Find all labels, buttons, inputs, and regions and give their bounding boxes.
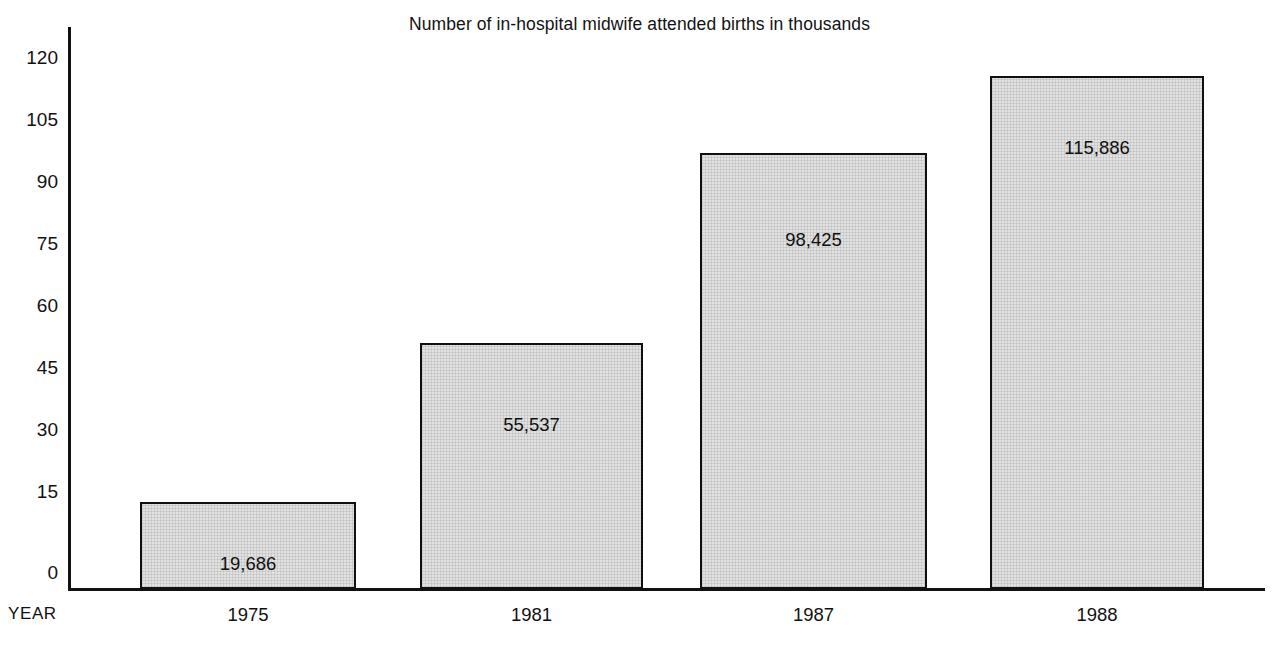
y-axis-tick-labels: 120 105 90 75 60 45 30 15 0 [0,0,58,648]
y-tick-label-90: 90 [0,172,58,191]
bar-1988[interactable]: 115,886 [990,76,1204,589]
y-tick-label-45: 45 [0,358,58,377]
plot-area: 19,686 55,537 98,425 115,886 [71,27,1265,589]
bar-value-1975: 19,686 [142,554,354,573]
bar-value-1987: 98,425 [702,230,925,249]
bar-value-1981: 55,537 [422,415,641,434]
y-tick-label-75: 75 [0,234,58,253]
y-tick-label-120: 120 [0,48,58,67]
bar-chart: Number of in-hospital midwife attended b… [0,0,1279,648]
x-tick-label-1981: 1981 [420,604,643,626]
x-tick-label-1988: 1988 [990,604,1204,626]
y-tick-label-60: 60 [0,296,58,315]
bar-1975[interactable]: 19,686 [140,502,356,589]
x-axis-caption-year: YEAR [8,604,57,624]
bar-value-1988: 115,886 [992,138,1202,157]
y-tick-label-30: 30 [0,420,58,439]
y-tick-label-0: 0 [0,563,58,582]
x-tick-label-1975: 1975 [140,604,356,626]
bar-1987[interactable]: 98,425 [700,153,927,589]
y-tick-label-105: 105 [0,110,58,129]
bar-1981[interactable]: 55,537 [420,343,643,589]
x-tick-label-1987: 1987 [700,604,927,626]
y-tick-label-15: 15 [0,482,58,501]
